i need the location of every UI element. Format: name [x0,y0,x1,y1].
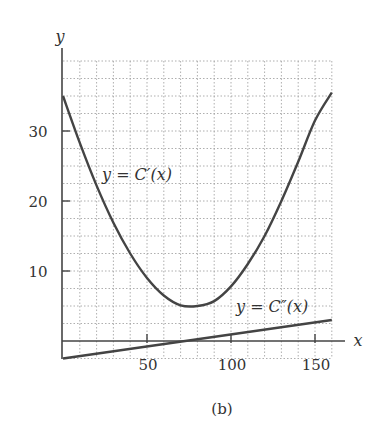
y-tick-label-30: 30 [28,123,47,141]
curve-label-c-prime: y = C′(x) [101,165,172,184]
x-tick-label-100: 100 [218,356,247,374]
x-tick-label-50: 50 [138,356,157,374]
y-axis-label: y [54,27,65,46]
chart: 30 20 10 50 100 150 y x y = C′(x) y = C″… [0,0,385,435]
y-tick-label-20: 20 [28,193,47,211]
figure-caption: (b) [211,400,232,418]
x-tick-label-150: 150 [302,356,331,374]
x-axis-label: x [353,331,362,350]
y-tick-label-10: 10 [28,263,47,281]
curve-label-c-double-prime: y = C″(x) [235,297,308,316]
